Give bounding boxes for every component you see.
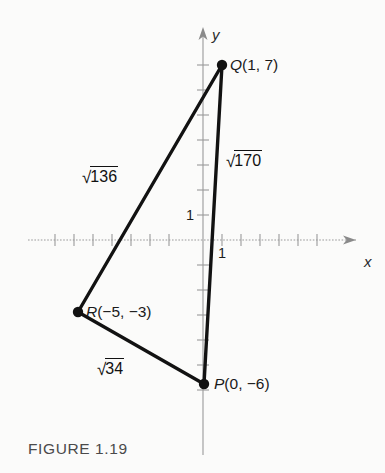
triangle-PQR [78, 65, 222, 384]
point-coords-R: (−5, −3) [97, 303, 151, 320]
point-label-P: P(0, −6) [214, 376, 270, 392]
x-axis [28, 234, 356, 246]
vertex-dot-P [199, 379, 209, 389]
segment-QR [78, 65, 222, 312]
x-unit-tick-label: 1 [218, 246, 226, 261]
side-length-PQ: √170 [226, 152, 262, 169]
coordinate-plot [0, 0, 385, 473]
point-coords-P: (0, −6) [224, 375, 269, 392]
point-label-Q: Q(1, 7) [230, 57, 278, 73]
point-name-Q: Q [230, 56, 242, 73]
radical-sign-icon: √ [82, 168, 91, 187]
point-name-P: P [214, 375, 224, 392]
figure-container: y x 1 1 Q(1, 7) R(−5, −3) P(0, −6) √170 … [0, 0, 385, 473]
vertex-dot-R [73, 307, 83, 317]
segment-PQ [204, 65, 222, 384]
x-axis-label: x [364, 254, 372, 269]
y-axis-label: y [212, 27, 220, 42]
side-length-PQ-value: 170 [234, 150, 262, 169]
side-length-RP-value: 34 [105, 358, 124, 377]
point-name-R: R [86, 303, 97, 320]
side-length-QR: √136 [82, 168, 118, 185]
radical-sign-icon: √ [226, 152, 235, 171]
side-length-RP: √34 [97, 360, 124, 377]
side-length-QR-value: 136 [90, 166, 118, 185]
point-coords-Q: (1, 7) [242, 56, 278, 73]
figure-caption: FIGURE 1.19 [28, 440, 128, 458]
y-unit-tick-label: 1 [186, 208, 194, 223]
point-label-R: R(−5, −3) [86, 304, 151, 320]
vertex-dot-Q [217, 60, 227, 70]
radical-sign-icon: √ [97, 360, 106, 379]
